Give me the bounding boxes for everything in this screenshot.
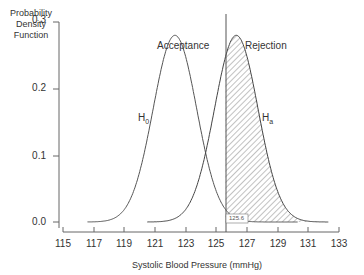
- x-axis-label: Systolic Blood Pressure (mmHg): [0, 260, 364, 270]
- h0-label: H0: [138, 112, 149, 125]
- x-tick-129: 129: [263, 238, 293, 249]
- x-tick-123: 123: [171, 238, 201, 249]
- x-tick-121: 121: [140, 238, 170, 249]
- x-tick-131: 131: [293, 238, 323, 249]
- rejection-region-shading: [226, 35, 329, 222]
- acceptance-label: Acceptance: [157, 40, 209, 51]
- x-tick-133: 133: [324, 238, 354, 249]
- x-tick-127: 127: [232, 238, 262, 249]
- x-tick-115: 115: [48, 238, 78, 249]
- x-tick-125: 125: [201, 238, 231, 249]
- x-tick-117: 117: [79, 238, 109, 249]
- threshold-value: 125.6: [229, 215, 244, 221]
- ha-label: Ha: [262, 112, 273, 125]
- rejection-label: Rejection: [245, 40, 287, 51]
- x-tick-119: 119: [109, 238, 139, 249]
